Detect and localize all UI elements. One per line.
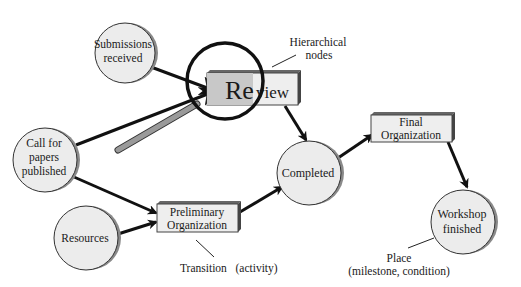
annotation-hierarchical-nodes: Hierarchical nodes bbox=[272, 36, 346, 67]
place-label: papers bbox=[29, 151, 60, 164]
svg-text:nodes: nodes bbox=[306, 49, 333, 61]
transition-label: Preliminary bbox=[170, 206, 225, 219]
transition-preliminary-organization[interactable]: Preliminary Organization bbox=[157, 201, 241, 232]
place-label: Call for bbox=[26, 137, 62, 149]
arc-completed-to-final bbox=[338, 135, 372, 158]
annotation-place: Place (milestone, condition) bbox=[348, 238, 450, 278]
place-completed[interactable]: Completed bbox=[277, 141, 344, 205]
svg-text:(milestone, condition): (milestone, condition) bbox=[348, 265, 450, 278]
workflow-diagram: Submissions received Call for papers pub… bbox=[0, 0, 521, 287]
place-submissions-received[interactable]: Submissions received bbox=[94, 23, 158, 83]
transition-label: Organization bbox=[167, 219, 227, 232]
svg-text:Transition (activity): Transition (activity) bbox=[180, 262, 278, 275]
place-label: received bbox=[104, 52, 143, 64]
arc-final-to-workshop bbox=[448, 142, 467, 187]
place-label: Resources bbox=[61, 232, 109, 244]
annotation-transition: Transition (activity) bbox=[180, 240, 278, 275]
svg-text:Hierarchical: Hierarchical bbox=[290, 36, 347, 48]
transition-label-magnified: Re bbox=[225, 76, 254, 105]
place-label: finished bbox=[443, 222, 482, 236]
arc-prelim-to-completed bbox=[240, 187, 282, 212]
arc-review-to-completed bbox=[285, 106, 306, 140]
place-workshop-finished[interactable]: Workshop finished bbox=[431, 190, 498, 254]
place-label: Submissions bbox=[94, 38, 153, 50]
place-label: Completed bbox=[282, 166, 335, 180]
arc-resources-to-prelim bbox=[118, 222, 156, 234]
transition-label: Final bbox=[399, 116, 423, 128]
svg-text:Place: Place bbox=[387, 252, 412, 264]
place-call-for-papers[interactable]: Call for papers published bbox=[13, 128, 80, 192]
transition-review[interactable]: view Re bbox=[207, 70, 301, 105]
place-resources[interactable]: Resources bbox=[54, 206, 121, 270]
transition-label: Organization bbox=[381, 129, 441, 142]
transition-final-organization[interactable]: Final Organization bbox=[371, 112, 455, 142]
place-label: Workshop bbox=[437, 207, 486, 221]
place-label: published bbox=[22, 165, 67, 178]
